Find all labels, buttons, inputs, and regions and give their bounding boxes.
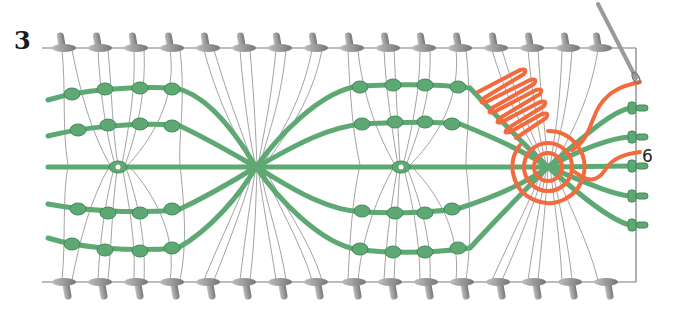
pin-icon <box>160 278 184 300</box>
pin-icon <box>304 278 328 300</box>
knot-icon <box>164 242 180 254</box>
knot-icon <box>417 207 433 219</box>
pin-icon <box>124 32 148 52</box>
pin-icon <box>414 278 438 300</box>
knot-icon <box>354 118 370 130</box>
knot-icon <box>385 246 401 258</box>
knot-icon <box>164 83 180 95</box>
pin-icon <box>448 32 472 52</box>
pin-icon <box>628 190 648 202</box>
knot-icon <box>132 245 148 257</box>
pin-icon <box>342 278 366 300</box>
pin-icon <box>268 32 292 52</box>
pin-icon <box>588 32 612 52</box>
knot-icon <box>132 82 148 94</box>
knot-icon <box>417 246 433 258</box>
pin-icon <box>450 278 474 300</box>
pin-icon <box>378 278 402 300</box>
knot-icon <box>64 88 80 100</box>
knot-icon <box>97 244 113 256</box>
pin-icon <box>304 32 328 52</box>
pin-icon <box>88 278 112 300</box>
knot-icon <box>97 83 113 95</box>
knot-icon <box>450 242 466 254</box>
pin-icon <box>52 32 76 52</box>
knot-icon <box>354 205 370 217</box>
pin-icon <box>376 32 400 52</box>
pin-icon <box>628 219 648 231</box>
pin-icon <box>52 278 76 300</box>
knot-icon <box>164 203 180 215</box>
pin-icon <box>628 102 648 114</box>
pin-icon <box>556 32 580 52</box>
knot-icon <box>70 124 86 136</box>
knot-icon <box>100 207 116 219</box>
knot-icon <box>417 116 433 128</box>
pin-icon <box>196 32 220 52</box>
pin-icon <box>232 32 256 52</box>
pin-icon <box>486 278 510 300</box>
knot-icon <box>417 79 433 91</box>
pin-icon <box>628 131 648 143</box>
knot-icon <box>132 118 148 130</box>
pin-icon <box>124 278 148 300</box>
pin-icon <box>268 278 292 300</box>
top-pins <box>52 32 612 52</box>
pin-icon <box>232 278 256 300</box>
knot-icon <box>444 203 460 215</box>
pin-icon <box>594 278 618 300</box>
knot-icon <box>352 81 368 93</box>
lacework-diagram <box>0 0 680 310</box>
knot-icon <box>385 79 401 91</box>
pin-icon <box>522 278 546 300</box>
pin-icon <box>88 32 112 52</box>
knot-icon <box>450 81 466 93</box>
pin-icon <box>484 32 508 52</box>
knot-icon <box>352 243 368 255</box>
knot-icon <box>100 119 116 131</box>
knot-icon <box>70 203 86 215</box>
knot-icon <box>387 207 403 219</box>
pin-icon <box>196 278 220 300</box>
bottom-pins <box>52 278 618 300</box>
pin-icon <box>340 32 364 52</box>
pin-icon <box>558 278 582 300</box>
knot-icon <box>164 120 180 132</box>
pin-icon <box>520 32 544 52</box>
knot-icon <box>132 207 148 219</box>
thread-number-label: 6 <box>642 146 653 166</box>
knot-icon <box>444 118 460 130</box>
knot-icon <box>387 116 403 128</box>
pin-icon <box>412 32 436 52</box>
right-pins <box>628 102 648 231</box>
knot-icon <box>64 238 80 250</box>
pin-icon <box>160 32 184 52</box>
